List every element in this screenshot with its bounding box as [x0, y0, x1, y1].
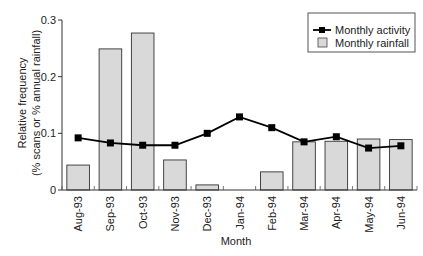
activity-marker: [301, 138, 308, 145]
legend-square-marker-icon: [319, 27, 325, 33]
rainfall-bar: [293, 142, 316, 190]
activity-marker: [75, 134, 82, 141]
activity-marker: [397, 142, 404, 149]
chart: Relative frequency (% scans or % annual …: [0, 0, 423, 256]
x-axis-title: Month: [221, 235, 252, 247]
x-tick-label: Dec-93: [201, 196, 213, 231]
y-tick-label: 0.2: [41, 71, 56, 83]
activity-marker: [236, 113, 243, 120]
y-tick-label: 0.3: [41, 14, 56, 26]
rainfall-bar: [325, 141, 348, 190]
activity-polyline: [78, 117, 401, 148]
y-axis-subtitle: (% scans or % annual rainfall): [30, 30, 42, 176]
rainfall-bar: [196, 185, 219, 190]
activity-marker: [268, 124, 275, 131]
rainfall-bar: [99, 49, 122, 190]
x-tick-label: Mar-94: [298, 196, 310, 231]
x-tick-label: Oct-93: [137, 196, 149, 229]
activity-marker: [333, 133, 340, 140]
activity-marker: [365, 145, 372, 152]
y-tick-label: 0.1: [41, 127, 56, 139]
x-tick-label: Sep-93: [104, 196, 116, 231]
rainfall-bar: [164, 160, 187, 190]
rainfall-bars: [67, 33, 412, 190]
activity-marker: [107, 139, 114, 146]
activity-line: [75, 113, 405, 151]
rainfall-bar: [131, 33, 154, 190]
legend-rainfall-label: Monthly rainfall: [335, 37, 409, 49]
legend-activity-label: Monthly activity: [335, 24, 411, 36]
activity-marker: [171, 142, 178, 149]
legend-bar-swatch-icon: [318, 38, 327, 47]
x-tick-label: Feb-94: [266, 196, 278, 231]
x-tick-label: May-94: [363, 196, 375, 233]
y-axis-label: Relative frequency (% scans or % annual …: [16, 30, 42, 176]
x-axis: Aug-93Sep-93Oct-93Nov-93Dec-93Jan-94Feb-…: [62, 186, 417, 233]
y-axis: 00.10.20.3: [41, 14, 62, 196]
rainfall-bar: [260, 172, 283, 190]
activity-marker: [204, 130, 211, 137]
y-axis-title: Relative frequency: [16, 57, 28, 149]
x-tick-label: Nov-93: [169, 196, 181, 231]
x-tick-label: Aug-93: [72, 196, 84, 231]
legend: Monthly activity Monthly rainfall: [308, 13, 415, 52]
rainfall-bar: [67, 165, 90, 190]
x-tick-label: Apr-94: [330, 196, 342, 229]
activity-marker: [139, 142, 146, 149]
y-tick-label: 0: [50, 184, 56, 196]
x-tick-label: Jun-94: [395, 196, 407, 230]
x-tick-label: Jan-94: [234, 196, 246, 230]
